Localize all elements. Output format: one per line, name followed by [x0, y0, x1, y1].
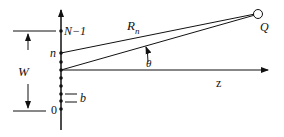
- element-dot: [59, 76, 63, 80]
- label-n: n: [50, 46, 56, 60]
- label-zero: 0: [51, 103, 57, 117]
- ray-center: [61, 15, 255, 70]
- ray-rn: [61, 14, 255, 53]
- label-z: z: [216, 76, 221, 90]
- element-dot: [59, 107, 63, 111]
- label-w: W: [18, 64, 30, 79]
- label-b: b: [80, 91, 86, 105]
- element-dot: [59, 60, 63, 64]
- label-theta: θ: [146, 57, 152, 69]
- array-diagram: N−1 n 0 W b R n θ z Q: [0, 0, 284, 137]
- label-q: Q: [260, 20, 269, 34]
- element-dot: [59, 92, 63, 96]
- element-dot: [59, 99, 63, 103]
- label-r-sub: n: [135, 26, 140, 36]
- element-dot: [59, 84, 63, 88]
- point-q: [254, 10, 263, 19]
- label-n-minus-1: N−1: [63, 24, 86, 38]
- label-r: R: [126, 18, 135, 33]
- element-dot: [59, 29, 63, 33]
